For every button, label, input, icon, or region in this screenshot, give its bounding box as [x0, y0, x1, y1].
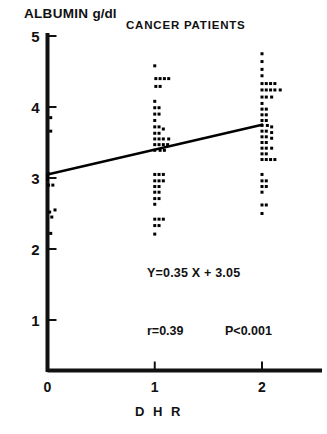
data-point [265, 135, 268, 138]
data-point [261, 179, 264, 182]
y-axis-tick-labels: 12345 [31, 28, 40, 329]
data-point [261, 147, 264, 150]
data-point [261, 141, 264, 144]
data-point [279, 88, 282, 91]
data-point [270, 131, 273, 134]
data-point [158, 106, 161, 109]
data-point [153, 179, 156, 182]
data-point [154, 77, 157, 80]
data-point [158, 137, 161, 140]
data-point [261, 102, 264, 105]
data-point [265, 82, 268, 85]
data-point [261, 185, 264, 188]
data-point [265, 108, 268, 111]
data-point [153, 64, 156, 67]
data-point [153, 233, 156, 236]
data-point [261, 108, 264, 111]
y-axis: 12345 [31, 28, 56, 372]
data-point [269, 82, 272, 85]
data-point [266, 124, 269, 127]
data-point [261, 135, 264, 138]
data-point [153, 119, 156, 122]
data-point [162, 143, 165, 146]
data-point [48, 211, 51, 214]
data-point [265, 113, 268, 116]
data-point [153, 224, 156, 227]
data-point [153, 113, 156, 116]
y-tick-label-3: 3 [31, 170, 39, 187]
data-point [47, 172, 50, 175]
data-point [47, 184, 50, 187]
y-tick-label-4: 4 [31, 99, 40, 116]
data-point [261, 191, 264, 194]
data-point-group [46, 52, 282, 235]
data-point [159, 85, 162, 88]
data-point [54, 208, 57, 211]
data-point [265, 88, 268, 91]
data-point [158, 197, 161, 200]
data-point [49, 130, 52, 133]
data-point [167, 77, 170, 80]
data-point [270, 125, 273, 128]
data-point [273, 82, 276, 85]
data-point [261, 152, 264, 155]
data-point [153, 203, 156, 206]
data-point [162, 173, 165, 176]
data-point [158, 185, 161, 188]
data-point [158, 224, 161, 227]
data-point [265, 158, 268, 161]
data-point [51, 184, 54, 187]
data-point [265, 185, 268, 188]
data-point [261, 203, 264, 206]
data-point [158, 179, 161, 182]
data-point [158, 173, 161, 176]
data-point [265, 96, 268, 99]
scatter-plot-figure: ALBUMIN g/dl CANCER PATIENTS D H R Y=0.3… [0, 0, 327, 434]
data-point [153, 106, 156, 109]
data-point [50, 216, 53, 219]
x-tick-label-0: 0 [44, 379, 52, 395]
data-point [162, 128, 165, 131]
data-point [265, 147, 268, 150]
data-point [261, 96, 264, 99]
data-point [153, 132, 156, 135]
data-point [265, 179, 268, 182]
data-point [261, 82, 264, 85]
data-point [265, 203, 268, 206]
data-point [159, 77, 162, 80]
x-tick-label-1: 1 [151, 379, 159, 395]
data-point [49, 116, 52, 119]
data-point [265, 152, 268, 155]
data-point [158, 132, 161, 135]
data-point [154, 85, 157, 88]
data-point [162, 137, 165, 140]
data-point [153, 218, 156, 221]
data-point [153, 149, 156, 152]
data-point [273, 158, 276, 161]
data-point [265, 130, 268, 133]
data-point [46, 178, 49, 181]
data-point [261, 88, 264, 91]
data-point [273, 88, 276, 91]
y-tick-label-2: 2 [31, 241, 39, 258]
data-point [153, 197, 156, 200]
data-point [261, 124, 264, 127]
data-point [265, 119, 268, 122]
data-point [49, 232, 52, 235]
data-point [158, 191, 161, 194]
data-point [269, 88, 272, 91]
x-axis: 012 [44, 362, 322, 395]
data-point [270, 147, 273, 150]
data-point [261, 130, 264, 133]
data-point [270, 96, 273, 99]
data-point [261, 212, 264, 215]
data-point [158, 113, 161, 116]
data-point [261, 68, 264, 71]
data-point [261, 60, 264, 63]
data-point [261, 173, 264, 176]
data-point [153, 125, 156, 128]
data-point [158, 125, 161, 128]
data-point [153, 191, 156, 194]
data-point [167, 137, 170, 140]
data-point [162, 218, 165, 221]
